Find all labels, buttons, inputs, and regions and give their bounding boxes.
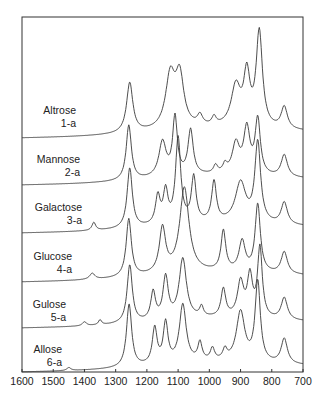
label-galactose-name: Galactose: [18, 201, 82, 214]
label-allose: Allose 6-a: [18, 343, 62, 369]
label-glucose-id: 4-a: [18, 263, 72, 276]
label-mannose: Mannose 2-a: [18, 153, 80, 179]
label-allose-id: 6-a: [18, 356, 62, 369]
label-glucose-name: Glucose: [18, 250, 72, 263]
x-tick-label: 1600: [10, 375, 34, 387]
label-altrose-id: 1-a: [18, 117, 76, 130]
label-galactose-id: 3-a: [18, 214, 82, 227]
x-tick-label: 1500: [42, 375, 66, 387]
label-mannose-name: Mannose: [18, 153, 80, 166]
label-altrose: Altrose 1-a: [18, 104, 76, 130]
x-tick-label: 1300: [104, 375, 128, 387]
x-tick-label: 900: [232, 375, 250, 387]
x-tick-label: 1100: [167, 375, 190, 387]
x-tick-label: 800: [263, 375, 281, 387]
x-tick-label: 700: [294, 375, 312, 387]
label-gulose-id: 5-a: [18, 311, 66, 324]
label-mannose-id: 2-a: [18, 166, 80, 179]
label-galactose: Galactose 3-a: [18, 201, 82, 227]
x-tick-label: 1000: [198, 375, 222, 387]
label-gulose: Gulose 5-a: [18, 298, 66, 324]
label-gulose-name: Gulose: [18, 298, 66, 311]
label-glucose: Glucose 4-a: [18, 250, 72, 276]
x-tick-label: 1400: [73, 375, 97, 387]
label-allose-name: Allose: [18, 343, 62, 356]
x-tick-label: 1200: [135, 375, 159, 387]
label-altrose-name: Altrose: [18, 104, 76, 117]
